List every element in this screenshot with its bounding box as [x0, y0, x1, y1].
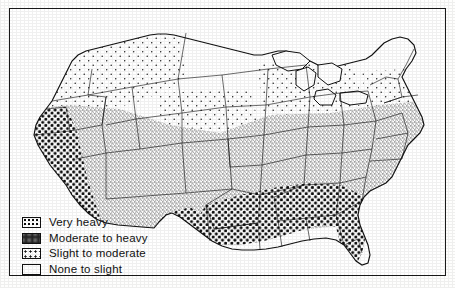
- legend-swatch-none-to-slight: [22, 264, 41, 275]
- legend-item[interactable]: Very heavy: [22, 215, 148, 231]
- legend-item[interactable]: Moderate to heavy: [22, 231, 148, 247]
- legend-item[interactable]: None to slight: [22, 262, 148, 278]
- map-figure: Very heavy Moderate to heavy Slight to m…: [0, 0, 455, 288]
- legend: Very heavy Moderate to heavy Slight to m…: [22, 215, 148, 277]
- legend-label: Slight to moderate: [49, 248, 146, 259]
- legend-item[interactable]: Slight to moderate: [22, 246, 148, 262]
- map-frame: Very heavy Moderate to heavy Slight to m…: [9, 8, 446, 276]
- legend-label: Very heavy: [49, 217, 108, 228]
- legend-swatch-slight-to-moderate: [22, 248, 41, 259]
- legend-label: None to slight: [49, 264, 122, 275]
- legend-label: Moderate to heavy: [49, 233, 148, 244]
- legend-swatch-moderate-to-heavy: [22, 233, 41, 244]
- legend-swatch-very-heavy: [22, 217, 41, 228]
